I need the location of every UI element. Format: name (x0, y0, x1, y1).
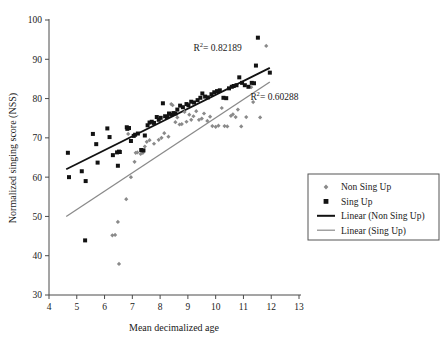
y-tick-label: 100 (28, 15, 43, 25)
x-tick-label: 11 (239, 302, 248, 312)
data-point-sing-up (143, 134, 147, 138)
scatter-plot: 45678910111213 30405060708090100 R2 = 0.… (0, 0, 445, 339)
y-tick-label: 50 (33, 212, 43, 222)
x-tick-label: 7 (130, 302, 135, 312)
data-point-sing-up (91, 132, 95, 136)
data-point-sing-up (105, 126, 109, 130)
y-tick-label: 70 (33, 133, 43, 143)
x-tick-label: 4 (47, 302, 52, 312)
data-point-sing-up (136, 132, 140, 136)
y-axis-title: Normalized singing score (NSS) (7, 93, 19, 223)
data-point-sing-up (66, 151, 70, 155)
data-point-sing-up (141, 148, 145, 152)
legend-item-label: Linear (Sing Up) (341, 226, 406, 237)
data-point-sing-up (165, 115, 169, 119)
data-point-sing-up (206, 95, 210, 99)
data-point-sing-up (254, 64, 258, 68)
data-point-sing-up (108, 135, 112, 139)
legend-item-label: Linear (Non Sing Up) (341, 211, 425, 222)
x-tick-label: 12 (266, 302, 276, 312)
r2-non-sing-up-value: = 0.60288 (260, 92, 299, 102)
chart-legend: Non Sing UpSing UpLinear (Non Sing Up)Li… (308, 174, 439, 240)
data-point-sing-up (186, 103, 190, 107)
data-point-sing-up (235, 83, 239, 87)
y-tick-label: 60 (33, 173, 43, 183)
data-point-sing-up (80, 169, 84, 173)
data-point-sing-up (198, 96, 202, 100)
data-point-sing-up (96, 161, 100, 165)
data-point-sing-up (175, 108, 179, 112)
data-point-sing-up (218, 88, 222, 92)
data-point-sing-up (268, 71, 272, 75)
data-point-sing-up (256, 36, 260, 40)
legend-item-label: Non Sing Up (341, 182, 391, 192)
data-point-sing-up (83, 238, 87, 242)
data-point-sing-up (159, 116, 163, 120)
data-point-sing-up (84, 179, 88, 183)
data-point-sing-up (152, 121, 156, 125)
data-point-sing-up (118, 150, 122, 154)
data-point-sing-up (127, 126, 131, 130)
data-point-sing-up (111, 153, 115, 157)
data-point-sing-up (129, 139, 133, 143)
data-point-sing-up (67, 175, 71, 179)
data-point-sing-up (243, 83, 247, 87)
x-axis-title: Mean decimalized age (129, 322, 220, 333)
data-point-sing-up (252, 81, 256, 85)
x-tick-label: 8 (158, 302, 163, 312)
chart-figure: 45678910111213 30405060708090100 R2 = 0.… (0, 0, 445, 339)
data-point-sing-up (246, 85, 250, 89)
y-tick-label: 90 (33, 55, 43, 65)
data-point-sing-up (116, 164, 120, 168)
data-point-sing-up (94, 142, 98, 146)
x-tick-label: 9 (186, 302, 191, 312)
x-tick-label: 5 (74, 302, 79, 312)
data-point-sing-up (173, 112, 177, 116)
legend-item-label: Sing Up (341, 197, 373, 207)
r2-sing-up-value: = 0.82189 (203, 43, 242, 53)
y-tick-label: 30 (33, 290, 43, 300)
x-tick-label: 6 (102, 302, 107, 312)
data-point-sing-up (192, 101, 196, 105)
y-tick-label: 40 (33, 251, 43, 261)
data-point-sing-up (237, 75, 241, 79)
y-tick-label: 80 (33, 94, 43, 104)
data-point-sing-up (181, 105, 185, 109)
data-point-sing-up (161, 101, 165, 105)
data-point-sing-up (224, 96, 228, 100)
legend-square-icon (324, 199, 329, 204)
x-tick-label: 13 (294, 302, 304, 312)
x-tick-label: 10 (211, 302, 221, 312)
